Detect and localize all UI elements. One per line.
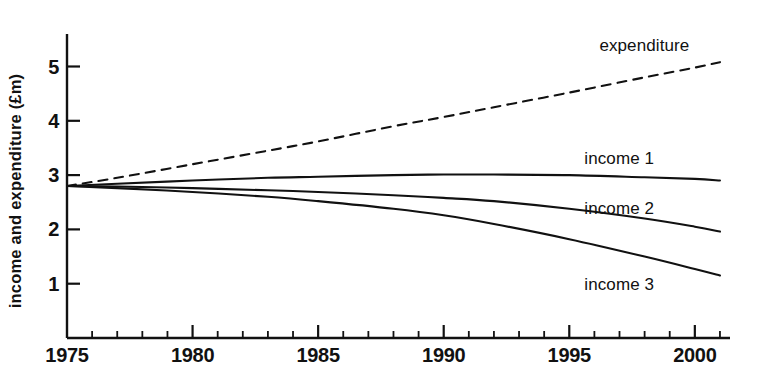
y-tick-label: 2 bbox=[48, 218, 59, 241]
series-line-income-1 bbox=[67, 174, 720, 185]
income-expenditure-chart: income and expenditure (£m) 123451975198… bbox=[0, 0, 771, 382]
x-tick-label: 1990 bbox=[422, 344, 465, 367]
y-ticks bbox=[67, 67, 80, 284]
x-tick-label: 1980 bbox=[171, 344, 214, 367]
y-tick-label: 4 bbox=[48, 109, 59, 132]
series-label-income-2: income 2 bbox=[584, 199, 654, 219]
y-tick-label: 5 bbox=[48, 55, 59, 78]
x-tick-label: 1985 bbox=[296, 344, 339, 367]
x-tick-label: 2000 bbox=[673, 344, 716, 367]
y-tick-label: 1 bbox=[48, 272, 59, 295]
x-tick-label: 1975 bbox=[45, 344, 88, 367]
y-tick-label: 3 bbox=[48, 164, 59, 187]
x-tick-label: 1995 bbox=[548, 344, 591, 367]
series-label-income-3: income 3 bbox=[584, 275, 654, 295]
series-label-income-1: income 1 bbox=[584, 149, 654, 169]
series-label-expenditure: expenditure bbox=[599, 36, 689, 56]
chart-plot-area bbox=[0, 0, 771, 382]
x-ticks bbox=[92, 325, 720, 338]
